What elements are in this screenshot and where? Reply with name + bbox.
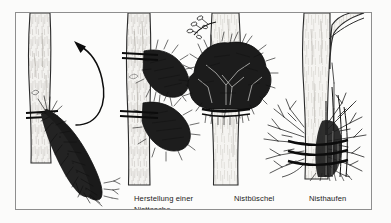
label-nistbuschel-line1: Nistbüschel: [234, 194, 274, 205]
label-nisttasche-line1: Herstellung einer: [134, 194, 193, 205]
label-nistbuschel: Nistbüschel: [234, 194, 274, 205]
tree-trunk-icon: [28, 13, 51, 163]
panel-1-nisttasche: [26, 13, 104, 206]
label-nisttasche-line2: Nisttasche: [134, 205, 193, 211]
illustration-frame: Herstellung einer Nisttasche Nistbüschel…: [15, 12, 372, 210]
twig-marker-icon: [104, 178, 120, 199]
curved-arrow-icon: [74, 41, 104, 125]
label-nisthaufen-line1: Nisthaufen: [309, 194, 346, 205]
illustration-figure: Herstellung einer Nisttasche Nistbüschel…: [0, 0, 391, 223]
label-nisttasche: Herstellung einer Nisttasche: [134, 194, 193, 210]
illustration-canvas: [16, 13, 371, 209]
panel-2-nisttasche-bundles: [120, 13, 200, 185]
tree-trunk-icon: [126, 13, 150, 185]
brushwood-bundle-icon: [179, 32, 278, 118]
panel-3-nistbuschel: [179, 13, 278, 185]
label-nisthaufen: Nisthaufen: [309, 194, 346, 205]
panel-4-nisthaufen: [264, 13, 366, 181]
